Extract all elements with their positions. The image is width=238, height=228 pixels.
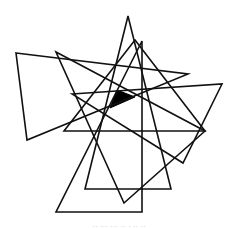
overlapping-triangles-figure [0,0,238,228]
figure-caption-cut-off: ·· ··· ··· ·· · ·· ·· [0,219,238,228]
